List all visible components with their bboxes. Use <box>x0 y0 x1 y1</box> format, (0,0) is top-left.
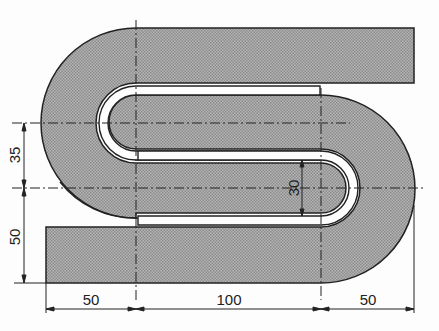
dim-left-lower: 50 <box>6 229 23 246</box>
dim-bottom-right: 50 <box>360 291 377 308</box>
dim-inner-slot: 30 <box>285 180 302 197</box>
drawing-canvas: 50 100 50 35 50 30 <box>0 0 439 331</box>
dim-bottom-middle: 100 <box>216 291 241 308</box>
s-shape-drawing: 50 100 50 35 50 30 <box>0 0 439 331</box>
dim-bottom-left: 50 <box>83 291 100 308</box>
dim-left-upper: 35 <box>6 147 23 164</box>
